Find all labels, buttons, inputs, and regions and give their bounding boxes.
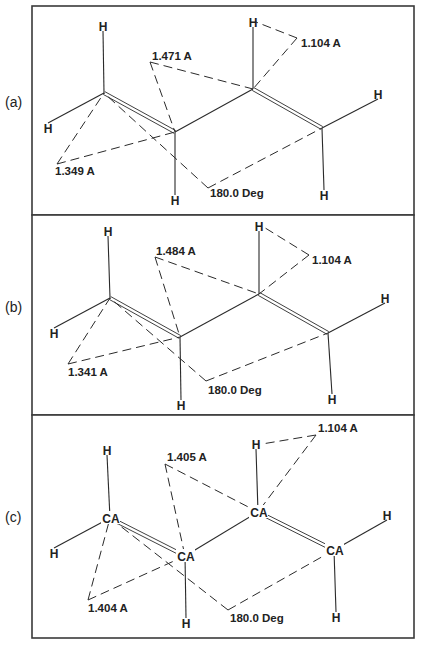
- measurement-label: 1.104 A: [318, 422, 358, 434]
- panel-c: (c) HHHHHHCACACACA1.404 A1.405 A1.104 A1…: [5, 415, 414, 638]
- hydrogen-atom-label: H: [50, 547, 59, 561]
- hydrogen-atom-label: H: [381, 292, 390, 306]
- hydrogen-atom-label: H: [332, 611, 341, 625]
- butadiene-geometry-figure: (a) HHHHHH1.349 A1.471 A1.104 A180.0 Deg…: [0, 0, 422, 645]
- hydrogen-atom-label: H: [374, 88, 383, 102]
- measurement-label: 1.349 A: [55, 165, 95, 177]
- carbon-atom-label: CA: [177, 550, 195, 564]
- hydrogen-atom-label: H: [252, 438, 261, 452]
- measurement-label: 1.471 A: [152, 50, 192, 62]
- carbon-atom-label: CA: [102, 512, 120, 526]
- hydrogen-atom-label: H: [104, 225, 113, 239]
- hydrogen-atom-label: H: [249, 16, 258, 30]
- measurement-label: 180.0 Deg: [210, 187, 264, 199]
- measurement-label: 1.104 A: [301, 37, 341, 49]
- hydrogen-atom-label: H: [383, 509, 392, 523]
- measurement-label: 1.341 A: [68, 366, 108, 378]
- hydrogen-atom-label: H: [103, 444, 112, 458]
- panel-label: (a): [5, 94, 22, 110]
- hydrogen-atom-label: H: [255, 220, 264, 234]
- measurement-label: 1.104 A: [312, 254, 352, 266]
- measurement-label: 180.0 Deg: [208, 384, 262, 396]
- carbon-atom-label: CA: [326, 544, 344, 558]
- hydrogen-atom-label: H: [44, 122, 53, 136]
- hydrogen-atom-label: H: [320, 189, 329, 203]
- measurement-label: 180.0 Deg: [230, 612, 284, 624]
- panel-a: (a) HHHHHH1.349 A1.471 A1.104 A180.0 Deg: [5, 6, 414, 215]
- measurement-label: 1.405 A: [167, 451, 207, 463]
- panel-label: (c): [5, 509, 21, 525]
- hydrogen-atom-label: H: [177, 399, 186, 413]
- hydrogen-atom-label: H: [99, 20, 108, 34]
- panel-label: (b): [5, 299, 22, 315]
- panel-b: (b) HHHHHH1.341 A1.484 A1.104 A180.0 Deg: [5, 215, 414, 415]
- hydrogen-atom-label: H: [328, 393, 337, 407]
- measurement-label: 1.484 A: [156, 245, 196, 257]
- hydrogen-atom-label: H: [50, 327, 59, 341]
- measurement-label: 1.404 A: [88, 602, 128, 614]
- hydrogen-atom-label: H: [182, 617, 191, 631]
- hydrogen-atom-label: H: [171, 194, 180, 208]
- carbon-atom-label: CA: [250, 506, 268, 520]
